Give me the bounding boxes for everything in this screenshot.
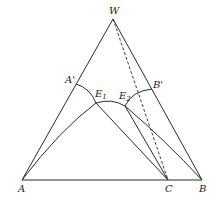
label-b-prime: B' [152,79,163,90]
line-e2-b [125,106,202,180]
label-b: B [198,183,206,194]
line-e1-c [96,103,168,180]
curve-a-prime-e1 [76,84,96,103]
line-e2-c [125,106,168,180]
label-w: W [109,5,120,16]
label-c: C [165,183,173,194]
curve-e1-e2 [96,101,125,106]
label-e1: E1 [94,88,107,101]
label-e2: E2 [118,90,131,103]
ternary-diagram: W A C B A' B' E1 E2 [0,0,219,204]
edge-w-a [22,19,113,180]
label-a: A [17,183,25,194]
label-a-prime: A' [64,74,75,85]
